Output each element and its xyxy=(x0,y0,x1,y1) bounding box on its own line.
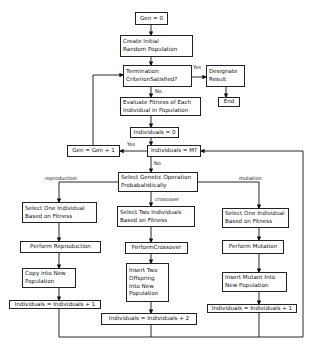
individuals-equals-m-node: Individuals = M? xyxy=(147,145,201,157)
copy-into-population-node: Copy into New Population xyxy=(22,268,76,288)
evaluate-fitness-node: Evaluate Fitness of Each Individual in P… xyxy=(120,97,201,116)
reproduction-increment-node: Individuals = Individuals + 1 xyxy=(9,300,101,309)
create-population-node: Create Initial Random Population xyxy=(120,35,193,57)
perform-crossover-node: PerformCrossover xyxy=(125,242,188,254)
perform-reproduction-node: Perform Reproduction xyxy=(20,241,101,253)
mutation-select-node: Select One Individual Based on Fitness xyxy=(222,208,289,228)
yes-label-termination: Yes xyxy=(193,64,201,70)
termination-check-node: Termination CriterionSatisfied? xyxy=(123,65,192,87)
designate-result-node: Designate Result xyxy=(206,65,245,87)
perform-mutation-node: Perform Mutation xyxy=(222,240,284,254)
gen-increment-node: Gen = Gen + 1 xyxy=(67,145,120,157)
reproduction-label: reproduction xyxy=(45,175,77,181)
flowchart-canvas: Gen = 0 Create Initial Random Population… xyxy=(0,0,313,350)
mutation-label: mutation xyxy=(239,175,262,181)
crossover-select-node: Select Two Individuals Based on Fitness xyxy=(117,206,195,227)
end-node: End xyxy=(218,97,240,107)
mutation-increment-node: Individuals = Individuals + 1 xyxy=(207,304,297,313)
crossover-label: crossover xyxy=(155,196,179,202)
crossover-increment-node: Individuals = Individuals + 2 xyxy=(101,313,197,325)
select-operation-node: Select Genetic Operation Probabalistical… xyxy=(118,172,198,192)
no-label-individuals: No xyxy=(154,160,161,166)
yes-label-individuals: Yes xyxy=(127,141,135,147)
insert-mutant-node: Insert Mutant Into New Population xyxy=(222,272,287,292)
reproduction-select-node: Select One Individual Based on Fitness xyxy=(22,202,97,223)
insert-offspring-node: Insert Two Offspring Into New Population xyxy=(126,263,169,302)
no-label-termination: No xyxy=(155,88,162,94)
gen-zero-node: Gen = 0 xyxy=(135,12,168,25)
individuals-zero-node: Individuals = 0 xyxy=(130,127,179,138)
